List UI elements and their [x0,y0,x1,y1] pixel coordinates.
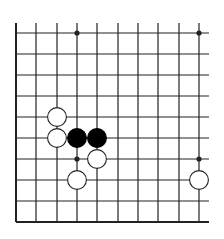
star-point-icon [74,156,79,161]
stones-layer [48,108,209,190]
star-point-icon [74,30,79,35]
white-stone[interactable] [88,150,107,169]
white-stone[interactable] [190,171,209,190]
white-stone[interactable] [68,171,87,190]
go-board[interactable] [0,0,224,239]
board-grid [16,23,209,222]
star-point-icon [196,156,201,161]
white-stone[interactable] [48,129,67,148]
black-stone[interactable] [68,129,87,148]
black-stone[interactable] [88,129,107,148]
white-stone[interactable] [48,108,67,127]
star-point-icon [196,30,201,35]
